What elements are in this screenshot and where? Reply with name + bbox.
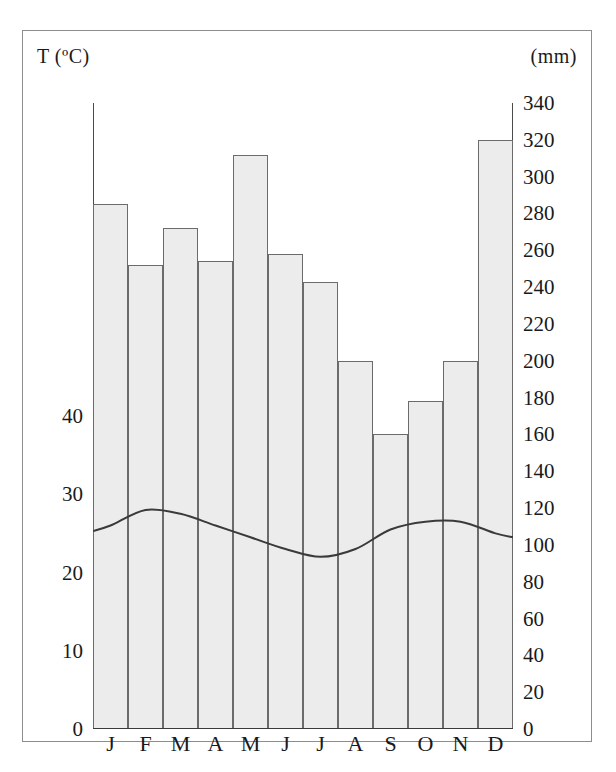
month-label: F [128,733,163,755]
month-label: J [93,733,128,755]
precipitation-bar [373,434,408,729]
precipitation-tick-label: 260 [523,240,555,261]
month-axis-labels: JFMAMJJASOND [93,733,513,763]
precipitation-tick-label: 0 [523,719,534,740]
month-label: M [233,733,268,755]
precipitation-bar [93,204,128,729]
precipitation-tick-label: 60 [523,609,544,630]
climograph-frame: T (ºC) (mm) 403020100 340320300280260240… [22,30,592,742]
chart-baseline [93,728,513,729]
month-label: N [443,733,478,755]
precipitation-bar [198,261,233,729]
month-label: J [303,733,338,755]
precipitation-tick-label: 220 [523,314,555,335]
temperature-tick-label: 40 [62,406,83,427]
month-label: O [408,733,443,755]
precipitation-tick-label: 320 [523,130,555,151]
month-label: M [163,733,198,755]
precipitation-bar [233,155,268,729]
precipitation-axis-tick-labels: 3403203002802602402202001801601401201008… [523,103,583,729]
temperature-tick-label: 10 [62,641,83,662]
temperature-axis-unit-label: T (ºC) [37,45,90,68]
temperature-tick-label: 20 [62,563,83,584]
month-label: J [268,733,303,755]
precipitation-bar [443,361,478,729]
temperature-axis-tick-labels: 403020100 [31,103,83,729]
precipitation-tick-label: 280 [523,203,555,224]
month-label: A [338,733,373,755]
precipitation-axis-unit-label: (mm) [531,45,577,68]
precipitation-tick-label: 340 [523,93,555,114]
precipitation-tick-label: 240 [523,277,555,298]
plot-area [93,103,513,729]
precipitation-tick-label: 120 [523,498,555,519]
month-label: D [478,733,513,755]
precipitation-tick-label: 80 [523,572,544,593]
precipitation-tick-label: 140 [523,461,555,482]
temperature-tick-label: 0 [73,719,84,740]
precipitation-bar [128,265,163,729]
precipitation-bar [163,228,198,729]
precipitation-tick-label: 180 [523,388,555,409]
temperature-tick-label: 30 [62,484,83,505]
precipitation-bars-group [93,103,513,729]
month-label: A [198,733,233,755]
precipitation-tick-label: 300 [523,167,555,188]
precipitation-bar [268,254,303,729]
precipitation-bar [408,401,443,729]
precipitation-tick-label: 160 [523,424,555,445]
precipitation-bar [338,361,373,729]
precipitation-tick-label: 40 [523,645,544,666]
precipitation-tick-label: 20 [523,682,544,703]
precipitation-bar [478,140,513,729]
precipitation-bar [303,282,338,729]
month-label: S [373,733,408,755]
precipitation-tick-label: 200 [523,351,555,372]
precipitation-tick-label: 100 [523,535,555,556]
